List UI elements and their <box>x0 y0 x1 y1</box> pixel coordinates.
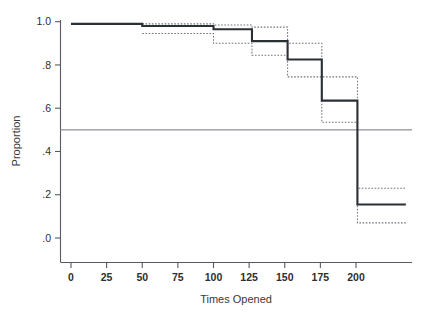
x-tick-label: 150 <box>276 271 294 283</box>
x-tick-label: 75 <box>172 271 184 283</box>
y-tick-label: .8 <box>42 59 51 71</box>
y-tick-label: .2 <box>42 188 51 200</box>
y-tick-label: 1.0 <box>36 15 51 27</box>
y-tick-label: .0 <box>42 232 51 244</box>
x-tick-label: 50 <box>136 271 148 283</box>
x-tick-label: 100 <box>205 271 223 283</box>
chart-container: .0.2.4.6.81.0 0255075100125150175200 Pro… <box>0 0 425 319</box>
y-tick-label: .6 <box>42 102 51 114</box>
x-tick-label: 0 <box>68 271 74 283</box>
survival-curve-chart: .0.2.4.6.81.0 0255075100125150175200 Pro… <box>0 0 425 319</box>
x-tick-label: 125 <box>240 271 258 283</box>
x-tick-label: 175 <box>312 271 330 283</box>
y-tick-label: .4 <box>42 145 51 157</box>
x-axis-label: Times Opened <box>200 293 272 305</box>
y-axis-label: Proportion <box>10 116 22 167</box>
x-tick-label: 200 <box>347 271 365 283</box>
x-tick-label: 25 <box>101 271 113 283</box>
